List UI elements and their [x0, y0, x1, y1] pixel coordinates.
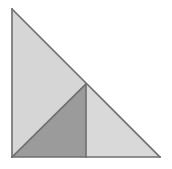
- triangle-figure: [0, 0, 172, 169]
